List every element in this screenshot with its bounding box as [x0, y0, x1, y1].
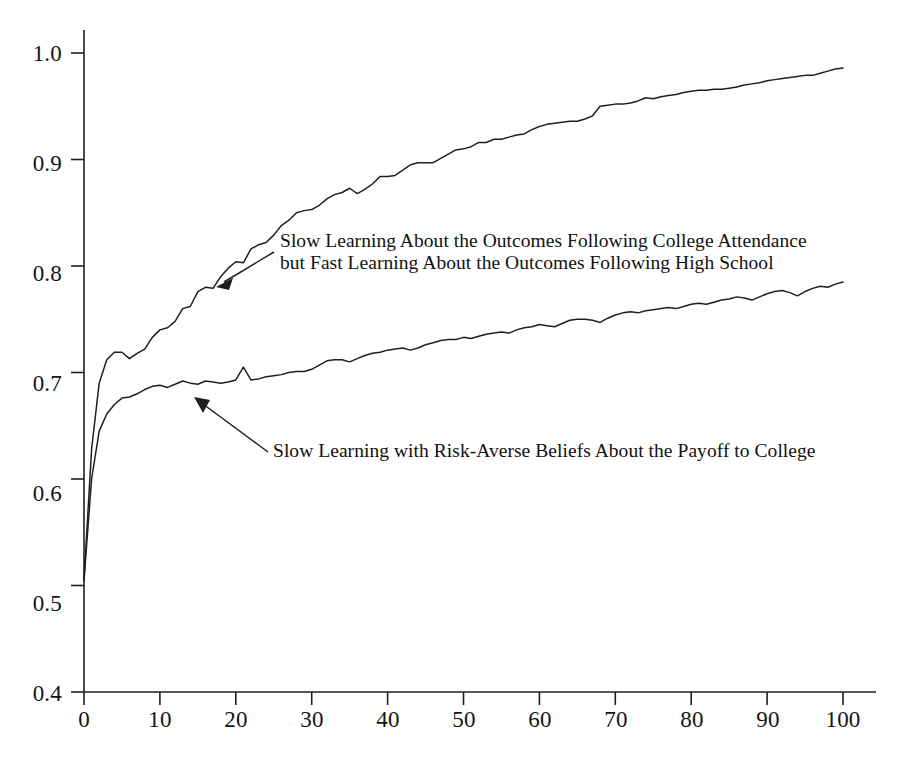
- series-line-risk-averse-beliefs: [84, 282, 843, 580]
- y-tick-label-0-5: 0.5: [4, 591, 62, 617]
- x-tick-label-10: 10: [130, 707, 190, 733]
- y-tick-label-0-9: 0.9: [4, 151, 62, 177]
- y-tick-label-0-4: 0.4: [4, 681, 62, 707]
- annotation-lower-line1: Slow Learning with Risk-Averse Beliefs A…: [273, 440, 816, 463]
- x-tick-label-50: 50: [434, 707, 494, 733]
- y-tick-label-0-6: 0.6: [4, 481, 62, 507]
- chart-figure: 1.0 0.9 0.8 0.7 0.6 0.5 0.4 0 10 20 30 4…: [0, 0, 900, 769]
- series-line-fast-learning-high-school: [84, 68, 843, 580]
- y-tick-label-0-7: 0.7: [4, 371, 62, 397]
- x-tick-label-60: 60: [510, 707, 570, 733]
- y-axis-ticks: [71, 53, 84, 692]
- y-tick-label-0-8: 0.8: [4, 261, 62, 287]
- x-tick-label-80: 80: [662, 707, 722, 733]
- x-axis-ticks: [84, 692, 843, 705]
- x-tick-label-100: 100: [813, 707, 873, 733]
- annotation-arrow-lower: [194, 397, 268, 452]
- annotation-upper-line2: but Fast Learning About the Outcomes Fol…: [280, 252, 774, 275]
- x-tick-label-30: 30: [282, 707, 342, 733]
- x-tick-label-40: 40: [358, 707, 418, 733]
- x-tick-label-0: 0: [54, 707, 114, 733]
- x-tick-label-90: 90: [738, 707, 798, 733]
- y-tick-label-1-0: 1.0: [4, 41, 62, 67]
- x-tick-label-20: 20: [206, 707, 266, 733]
- x-tick-label-70: 70: [586, 707, 646, 733]
- annotation-upper-line1: Slow Learning About the Outcomes Followi…: [280, 230, 807, 253]
- chart-plot-area: [0, 0, 900, 769]
